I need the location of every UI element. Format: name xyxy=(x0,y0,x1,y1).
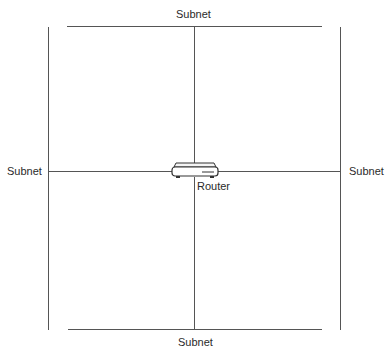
link-router-left xyxy=(48,171,172,172)
router-label: Router xyxy=(197,180,230,192)
subnet-top-label: Subnet xyxy=(176,8,211,20)
subnet-right-segment xyxy=(340,27,341,330)
subnet-left-label: Subnet xyxy=(7,165,42,177)
link-router-bottom xyxy=(194,177,195,329)
subnet-bottom-label: Subnet xyxy=(178,336,213,348)
link-router-top xyxy=(194,26,195,164)
subnet-bottom-segment xyxy=(68,329,322,330)
subnet-left-segment xyxy=(48,27,49,330)
link-router-right xyxy=(218,171,340,172)
router-icon xyxy=(170,161,220,181)
subnet-right-label: Subnet xyxy=(349,165,384,177)
